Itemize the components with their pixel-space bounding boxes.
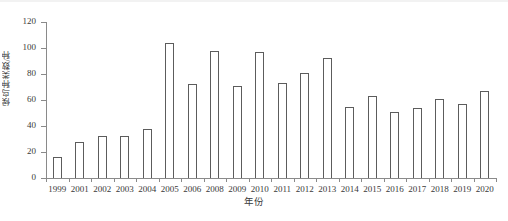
x-axis-tick-label: 2005 [159, 184, 182, 194]
x-axis-tick-label: 2008 [204, 184, 227, 194]
bar [458, 104, 467, 178]
y-axis-title: 候鸟种类数/种 [3, 50, 16, 106]
x-axis-tick [91, 178, 92, 182]
y-axis-tick [41, 48, 46, 49]
bar [368, 96, 377, 178]
y-axis-tick [41, 100, 46, 101]
bar-chart: 020406080100120 199920012002200320042005… [0, 0, 508, 221]
x-axis-tick-label: 2012 [294, 184, 317, 194]
x-axis-tick-label: 2010 [249, 184, 272, 194]
x-axis-tick-label: 1999 [46, 184, 69, 194]
bar [390, 112, 399, 178]
bar [345, 107, 354, 179]
bar [255, 52, 264, 178]
x-axis-tick [496, 178, 497, 182]
x-axis-tick-label: 2016 [384, 184, 407, 194]
x-axis-tick [474, 178, 475, 182]
x-axis-tick [204, 178, 205, 182]
x-axis-tick-label: 2002 [91, 184, 114, 194]
scan-edge-band [0, 0, 508, 2]
x-axis-tick-label: 2001 [69, 184, 92, 194]
y-axis-tick [41, 126, 46, 127]
x-axis-tick-label: 2011 [271, 184, 294, 194]
bar [435, 99, 444, 178]
x-axis-tick [316, 178, 317, 182]
y-axis-tick-label: 40 [6, 121, 36, 130]
bar [165, 43, 174, 178]
x-axis-tick [114, 178, 115, 182]
x-axis-tick [271, 178, 272, 182]
x-axis-tick [159, 178, 160, 182]
bar [53, 157, 62, 178]
y-axis-tick-label: 120 [6, 17, 36, 26]
x-axis-tick [69, 178, 70, 182]
bar [143, 129, 152, 178]
x-axis-tick [361, 178, 362, 182]
bar [233, 86, 242, 178]
y-axis-tick [41, 22, 46, 23]
x-axis-tick-label: 2017 [406, 184, 429, 194]
x-axis-tick [249, 178, 250, 182]
x-axis-tick-label: 2013 [316, 184, 339, 194]
bar [413, 108, 422, 178]
x-axis-tick [136, 178, 137, 182]
bar [278, 83, 287, 178]
x-axis-tick [451, 178, 452, 182]
x-axis-tick [384, 178, 385, 182]
x-axis-tick-label: 2009 [226, 184, 249, 194]
x-axis-tick-label: 2003 [114, 184, 137, 194]
x-axis-tick [181, 178, 182, 182]
x-axis-tick-label: 2006 [181, 184, 204, 194]
x-axis-tick [429, 178, 430, 182]
bar [98, 136, 107, 178]
x-axis-tick [226, 178, 227, 182]
bar [188, 84, 197, 178]
y-axis-tick-label: 0 [6, 173, 36, 182]
x-axis-tick [46, 178, 47, 182]
x-axis-tick [294, 178, 295, 182]
x-axis-tick-label: 2004 [136, 184, 159, 194]
x-axis-tick-label: 2020 [474, 184, 497, 194]
bar [323, 58, 332, 178]
y-axis-tick [41, 74, 46, 75]
y-axis-tick [41, 152, 46, 153]
x-axis-tick-label: 2015 [361, 184, 384, 194]
bar [300, 73, 309, 178]
bar [75, 142, 84, 178]
x-axis-tick-label: 2019 [451, 184, 474, 194]
y-axis-line [46, 22, 47, 179]
x-axis-tick [339, 178, 340, 182]
bar [480, 91, 489, 178]
bar [120, 136, 129, 178]
x-axis-tick [406, 178, 407, 182]
x-axis-tick-label: 2018 [429, 184, 452, 194]
x-axis-title: 年份 [0, 197, 508, 208]
bar [210, 51, 219, 178]
y-axis-tick-label: 20 [6, 147, 36, 156]
x-axis-tick-label: 2014 [339, 184, 362, 194]
